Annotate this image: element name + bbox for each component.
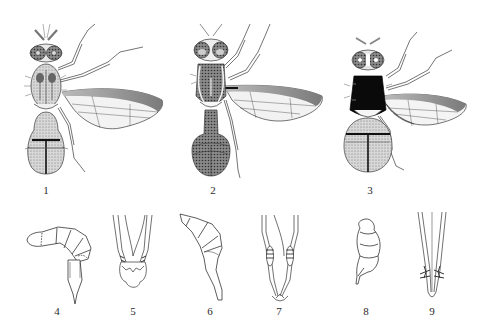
figure-label-5: 5 bbox=[130, 306, 136, 317]
figure-1-fly bbox=[24, 24, 163, 174]
figure-label-9: 9 bbox=[429, 306, 435, 317]
figure-label-4: 4 bbox=[54, 306, 60, 317]
figure-label-3: 3 bbox=[367, 185, 373, 196]
figure-4-abdomen bbox=[27, 227, 91, 304]
figure-label-1: 1 bbox=[43, 185, 49, 196]
figure-3-fly bbox=[344, 32, 466, 172]
figure-6-abdomen bbox=[180, 214, 222, 300]
figure-label-2: 2 bbox=[210, 185, 216, 196]
figure-label-6: 6 bbox=[207, 306, 213, 317]
plate-drawings bbox=[0, 0, 477, 330]
figure-9-aculeus-tip bbox=[418, 212, 446, 297]
figure-label-7: 7 bbox=[276, 306, 282, 317]
figure-7-aculeus-tip bbox=[262, 215, 298, 301]
figure-8-abdomen bbox=[356, 219, 380, 284]
figure-label-8: 8 bbox=[363, 306, 369, 317]
figure-5-aculeus-tip bbox=[113, 215, 152, 287]
figure-plate: 1 2 3 4 5 6 7 8 9 bbox=[0, 0, 477, 330]
figure-2-fly bbox=[190, 24, 322, 178]
